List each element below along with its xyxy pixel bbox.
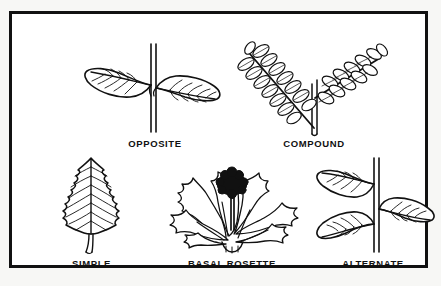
- alternate-leaf-arrangement-icon: [308, 154, 438, 256]
- panel-label-alternate: ALTERNATE: [308, 258, 438, 269]
- panel-label-basal-rosette: BASAL ROSETTE: [152, 258, 312, 269]
- diagram-frame: OPPOSITE: [9, 11, 428, 268]
- panel-simple: SIMPLE: [34, 154, 149, 272]
- opposite-leaf-arrangement-icon: [75, 38, 235, 138]
- panel-basal-rosette: BASAL ROSETTE: [152, 154, 312, 272]
- panel-label-compound: COMPOUND: [234, 138, 394, 149]
- leaf-diagram-figure: OPPOSITE: [0, 0, 441, 286]
- basal-rosette-icon: [152, 154, 312, 256]
- panel-opposite: OPPOSITE: [75, 38, 235, 156]
- simple-leaf-icon: [34, 154, 149, 256]
- panel-compound: COMPOUND: [234, 36, 394, 156]
- panel-alternate: ALTERNATE: [308, 154, 438, 272]
- compound-leaf-icon: [234, 36, 394, 138]
- panel-label-opposite: OPPOSITE: [75, 138, 235, 149]
- panel-label-simple: SIMPLE: [34, 258, 149, 269]
